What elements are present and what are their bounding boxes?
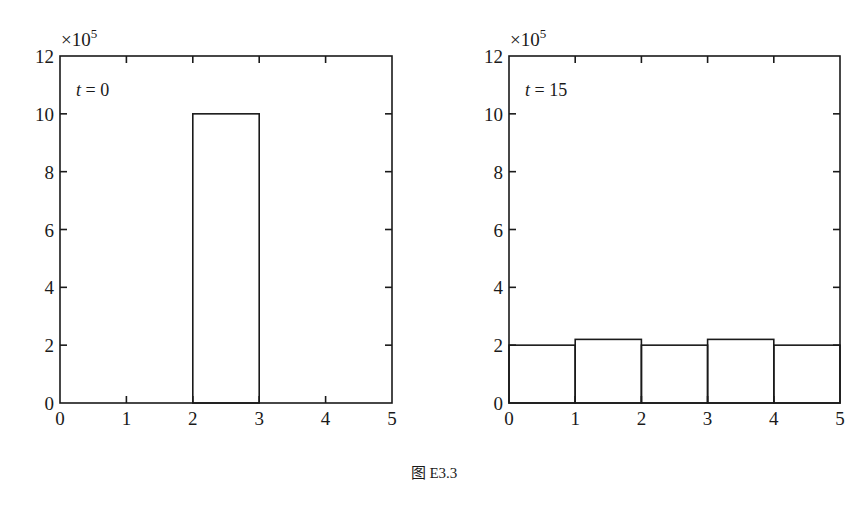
bar (641, 345, 707, 403)
y-tick-label: 10 (35, 104, 54, 125)
y-multiplier-label: ×105 (510, 26, 546, 50)
bar (774, 345, 840, 403)
y-tick-label: 0 (45, 393, 55, 414)
time-annotation: t = 15 (525, 80, 567, 100)
figure: 012345024681012×105t = 0012345024681012×… (0, 0, 868, 509)
x-tick-label: 1 (570, 408, 580, 429)
bar (708, 339, 774, 403)
x-tick-label: 3 (703, 408, 713, 429)
x-tick-label: 4 (769, 408, 779, 429)
x-tick-label: 1 (122, 408, 132, 429)
time-annotation: t = 0 (76, 80, 109, 100)
x-tick-label: 4 (321, 408, 331, 429)
y-tick-label: 2 (494, 335, 504, 356)
x-tick-label: 5 (835, 408, 845, 429)
y-tick-label: 12 (35, 46, 54, 67)
y-tick-label: 2 (45, 335, 55, 356)
y-tick-label: 6 (494, 220, 504, 241)
y-tick-label: 8 (494, 162, 504, 183)
y-tick-label: 6 (45, 220, 55, 241)
y-tick-label: 4 (45, 277, 55, 298)
axes-frame (509, 56, 840, 403)
figure-caption: 图 E3.3 (0, 461, 868, 482)
y-tick-label: 10 (484, 104, 503, 125)
x-tick-label: 5 (387, 408, 397, 429)
axes-frame (60, 56, 392, 403)
panel-right: 012345024681012×105t = 15 (484, 26, 845, 429)
bar (193, 114, 259, 403)
x-tick-label: 2 (188, 408, 198, 429)
x-tick-label: 0 (55, 408, 65, 429)
y-tick-label: 0 (494, 393, 504, 414)
panel-left: 012345024681012×105t = 0 (35, 26, 397, 429)
x-tick-label: 2 (637, 408, 647, 429)
y-tick-label: 8 (45, 162, 55, 183)
bar (509, 345, 575, 403)
x-tick-label: 3 (254, 408, 264, 429)
x-tick-label: 0 (504, 408, 514, 429)
y-tick-label: 4 (494, 277, 504, 298)
y-multiplier-label: ×105 (61, 26, 97, 50)
y-tick-label: 12 (484, 46, 503, 67)
bar (575, 339, 641, 403)
